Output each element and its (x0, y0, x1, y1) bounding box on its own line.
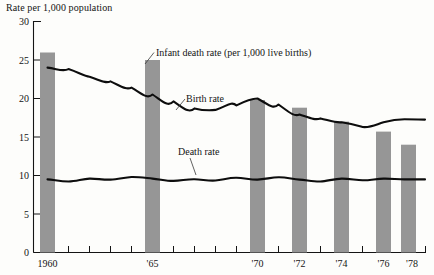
y-tick-label-20: 20 (19, 93, 29, 104)
y-tick-label-30: 30 (19, 16, 29, 27)
bar-1960 (40, 53, 55, 253)
annotation-death-rate: Death rate (178, 146, 220, 175)
x-axis-tick-labels: 1960 '65 '70 '72 '74 '76 '78 (38, 258, 418, 269)
chart-root: Rate per 1,000 population 30 25 20 15 10… (0, 0, 434, 275)
x-tick-label-1960: 1960 (38, 258, 58, 269)
y-tick-label-15: 15 (19, 132, 29, 143)
annotation-label-death-rate: Death rate (178, 146, 220, 157)
x-tick-label-78: '78 (406, 258, 418, 269)
x-tick-label-74: '74 (336, 258, 348, 269)
y-tick-label-5: 5 (24, 209, 29, 220)
annotation-infant-death-rate: Infant death rate (per 1,000 live births… (145, 47, 311, 64)
annotation-label-birth-rate: Birth rate (186, 93, 225, 104)
x-tick-label-72: '72 (294, 258, 306, 269)
x-tick-label-70: '70 (252, 258, 264, 269)
y-axis-ticks (34, 22, 42, 253)
x-axis-ticks (48, 246, 426, 253)
y-axis-tick-labels: 30 25 20 15 10 5 0 (19, 16, 29, 258)
line-series-death-rate (48, 177, 426, 182)
bar-1965 (145, 60, 160, 253)
annotation-label-infant-death-rate: Infant death rate (per 1,000 live births… (156, 47, 311, 59)
line-series-birth-rate (48, 68, 426, 128)
chart-canvas: 30 25 20 15 10 5 0 (0, 0, 434, 275)
x-tick-label-76: '76 (378, 258, 390, 269)
bar-1974 (334, 122, 349, 253)
bar-series-infant-death-rate (40, 53, 416, 253)
x-tick-label-65: '65 (147, 258, 159, 269)
y-tick-label-25: 25 (19, 55, 29, 66)
bar-1976 (376, 132, 391, 253)
bar-1978 (401, 145, 416, 253)
y-tick-label-0: 0 (24, 247, 29, 258)
y-tick-label-10: 10 (19, 170, 29, 181)
bar-1970 (250, 100, 265, 253)
